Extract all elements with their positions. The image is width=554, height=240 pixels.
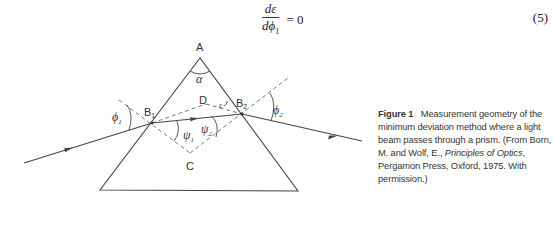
point-b2 [241, 113, 244, 116]
label-phi1: ϕ1 [112, 110, 122, 126]
label-a: A [196, 41, 204, 53]
label-b1-sub: 1 [151, 112, 155, 119]
figure-caption: Figure 1 Measurement geometry of the min… [378, 108, 554, 186]
emergent-arrow-icon [328, 136, 338, 140]
epsilon-arc [224, 101, 227, 106]
label-alpha: α [196, 72, 203, 86]
refracted-arrow-icon [190, 117, 199, 121]
label-b2: B2 [236, 97, 247, 110]
label-phi2: ϕ2 [273, 103, 283, 119]
label-b1: B1 [144, 106, 155, 119]
incident-ray [24, 123, 152, 163]
label-c: C [186, 160, 194, 172]
label-b1-text: B [144, 106, 151, 118]
point-b1 [151, 122, 154, 125]
label-psi1-sub: 1 [190, 136, 194, 144]
label-b2-sub: 2 [243, 103, 247, 110]
psi1-arc [174, 121, 178, 141]
figure-label: Figure 1 [378, 109, 413, 119]
label-d: D [199, 94, 207, 106]
incident-arrow-icon [64, 148, 73, 153]
label-psi1: ψ1 [183, 128, 194, 144]
label-phi2-sub: 2 [279, 111, 283, 119]
emergent-ray [242, 114, 362, 141]
caption-book-title: Principles of Optics [445, 148, 523, 158]
label-psi2-sub: 2 [208, 130, 212, 138]
label-psi2: ψ2 [201, 122, 212, 138]
label-phi1-sub: 1 [118, 118, 122, 126]
label-b2-text: B [236, 97, 243, 109]
